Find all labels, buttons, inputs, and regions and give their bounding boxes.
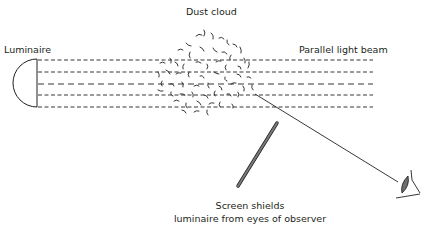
dust-cloud [158, 30, 253, 115]
dust-cloud-label: Dust cloud [186, 6, 237, 18]
screen-caption-line1: Screen shields [216, 200, 285, 212]
screen-shield [238, 123, 277, 186]
parallel-light-beam [38, 60, 373, 107]
luminaire-label: Luminaire [4, 44, 51, 56]
diagram-canvas [0, 0, 433, 232]
luminaire-icon [13, 59, 37, 107]
screen-caption-line2: luminaire from eyes of observer [174, 213, 326, 225]
light-scattering-diagram: Luminaire Dust cloud Parallel light beam… [0, 0, 433, 232]
parallel-beam-label: Parallel light beam [299, 44, 388, 56]
eye-icon [396, 170, 420, 198]
